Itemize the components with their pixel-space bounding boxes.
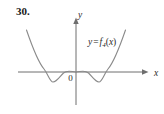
graph-figure: y x 0 <box>0 0 164 114</box>
y-axis-label: y <box>77 10 83 20</box>
figure-panel: 30. y x 0 y=f4(x) <box>0 0 164 114</box>
origin-label: 0 <box>68 73 73 83</box>
function-label-close-paren: ) <box>113 37 116 47</box>
function-label: y=f4(x) <box>88 38 116 49</box>
function-label-equals: = <box>92 37 99 47</box>
x-axis-label: x <box>153 68 159 78</box>
x-axis-arrowhead <box>142 69 149 74</box>
